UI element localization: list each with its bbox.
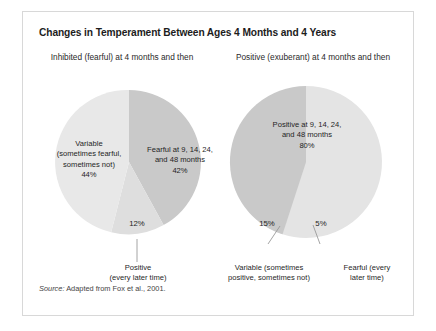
source-note: Source: Adapted from Fox et al., 2001. [39,284,166,293]
source-note-text: Adapted from Fox et al., 2001. [64,284,165,293]
pie-callout-right-variable: Variable (sometimes positive, sometimes … [208,263,330,284]
pie-pct-right-fearful: 5% [301,219,341,228]
pie-pct-right-variable: 15% [245,219,289,228]
pie-label-left-variable: Variable (sometimes fearful, sometimes n… [41,139,137,181]
pie-pct-left-positive: 12% [115,219,159,228]
pie-label-right-positive: Positive at 9, 14, 24, and 48 months 80% [245,120,369,151]
source-note-label: Source: [39,284,64,293]
pie-label-left-fearful: Fearful at 9, 14, 24, and 48 months 42% [133,145,227,176]
pie-callout-right-fearful: Fearful (every later time) [329,263,405,284]
figure-card: Changes in Temperament Between Ages 4 Mo… [22,11,414,316]
pie-callout-left-positive: Positive (every later time) [85,263,191,284]
